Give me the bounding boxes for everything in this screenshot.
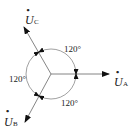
angle-label-bottom-right: 120° (61, 98, 79, 108)
svg-text:A: A (123, 80, 128, 88)
phasor-diagram: 120° 120° 120° • U C • U A • U B (0, 0, 131, 135)
svg-text:B: B (13, 120, 18, 128)
phasor-b (25, 74, 51, 122)
angle-label-left: 120° (9, 74, 27, 84)
angle-arc-c-b (26, 52, 39, 96)
svg-text:C: C (34, 18, 39, 26)
angle-label-top-right: 120° (64, 44, 82, 54)
label-u-a: • U A (114, 67, 128, 89)
phasor-c (24, 27, 51, 74)
label-u-c: • U C (25, 5, 39, 27)
label-u-b: • U B (4, 106, 18, 129)
